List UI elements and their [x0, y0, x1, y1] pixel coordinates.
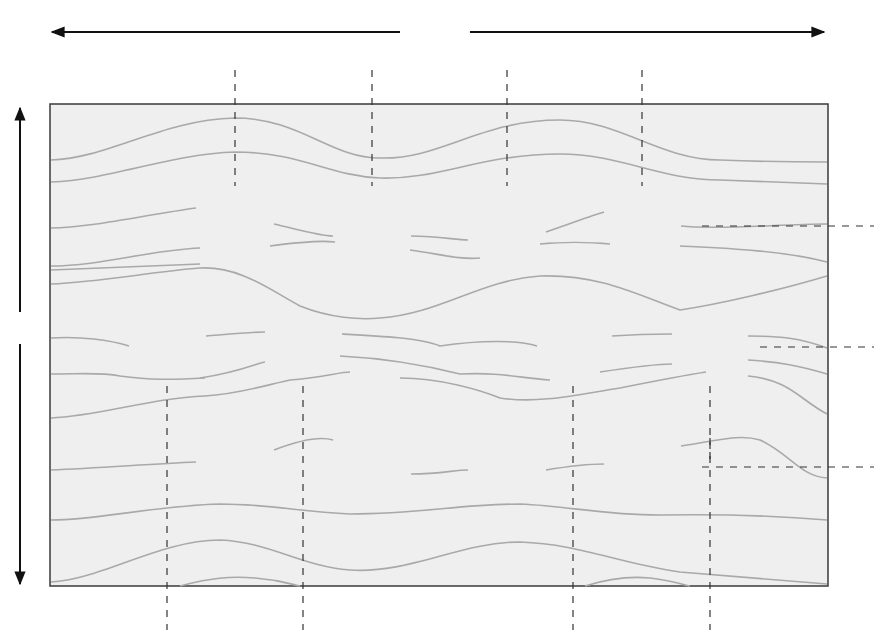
drilling-layout-diagram [0, 0, 878, 636]
